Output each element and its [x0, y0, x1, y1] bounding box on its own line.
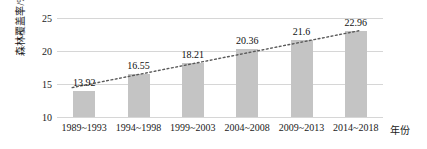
bar-value-labels: 13.9216.5518.2120.3621.622.96 [57, 18, 383, 117]
x-tick-label: 1999~2003 [170, 122, 215, 133]
x-tick-label: 1994~1998 [116, 122, 161, 133]
bar-value-label: 13.92 [73, 77, 96, 88]
plot-area: 13.9216.5518.2120.3621.622.96 [57, 18, 383, 117]
bar-value-label: 21.6 [293, 26, 311, 37]
x-tick-label: 1989~1993 [61, 122, 106, 133]
bar-value-label: 18.21 [182, 49, 205, 60]
y-tick-label: 15 [28, 79, 52, 90]
x-axis-title: 年份 [390, 122, 410, 137]
gridline [57, 117, 383, 118]
y-tick-label: 20 [28, 46, 52, 57]
x-tick-label: 2004~2008 [224, 122, 269, 133]
forest-coverage-chart: 森林覆盖率/% 10152025 13.9216.5518.2120.3621.… [0, 0, 427, 149]
y-tick-label: 10 [28, 112, 52, 123]
bar-value-label: 16.55 [127, 60, 150, 71]
bar-value-label: 20.36 [236, 35, 259, 46]
y-tick-label: 25 [28, 13, 52, 24]
x-tick-label: 2014~2018 [333, 122, 378, 133]
bar-value-label: 22.96 [345, 17, 368, 28]
x-axis-tick-labels: 1989~19931994~19981999~20032004~20082009… [57, 122, 383, 140]
y-axis-title: 森林覆盖率/% [12, 0, 26, 69]
x-tick-label: 2009~2013 [279, 122, 324, 133]
y-axis-tick-labels: 10152025 [28, 0, 52, 149]
